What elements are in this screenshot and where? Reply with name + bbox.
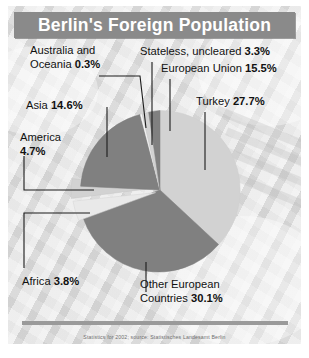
value-australia-oceania: 0.3%: [75, 58, 101, 70]
value-america: 4.7%: [20, 145, 46, 157]
value-asia: 14.6%: [51, 99, 83, 111]
label-australia-line1: Australia and: [30, 44, 95, 56]
leader-line-africa: [24, 213, 90, 268]
value-africa: 3.8%: [54, 275, 80, 287]
value-european-union: 15.5%: [245, 62, 277, 74]
label-other-european-line1: Other European: [140, 278, 220, 290]
label-america-name: America: [20, 131, 61, 143]
label-stateless-name: Stateless, uncleared: [140, 45, 241, 57]
infographic: Berlin's Foreign Population Australia an…: [0, 0, 309, 358]
label-asia-name: Asia: [26, 99, 48, 111]
label-european-union-name: European Union: [161, 62, 242, 74]
label-turkey: Turkey 27.7%: [196, 95, 265, 109]
label-other-european: Other European Countries 30.1%: [140, 278, 223, 305]
value-other-european: 30.1%: [191, 292, 223, 304]
label-asia: Asia 14.6%: [26, 99, 83, 113]
value-turkey: 27.7%: [233, 95, 265, 107]
label-africa-name: Africa: [22, 275, 51, 287]
label-stateless: Stateless, uncleared 3.3%: [140, 45, 270, 59]
label-africa: Africa 3.8%: [22, 275, 79, 289]
label-america: America 4.7%: [20, 131, 61, 158]
label-australia-oceania: Australia and Oceania 0.3%: [30, 44, 100, 71]
divider-rule: [22, 321, 288, 325]
label-turkey-name: Turkey: [196, 95, 230, 107]
label-european-union: European Union 15.5%: [161, 62, 277, 76]
label-australia-line2: Oceania: [30, 58, 72, 70]
label-other-european-line2: Countries: [140, 292, 188, 304]
value-stateless: 3.3%: [244, 45, 270, 57]
source-caption: Statistics for 2002; source: Statistisch…: [0, 334, 309, 340]
